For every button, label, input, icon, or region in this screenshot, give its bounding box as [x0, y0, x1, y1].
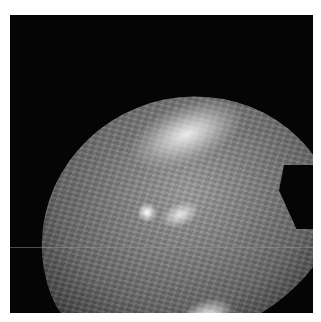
scan-line	[10, 247, 313, 248]
tissue-specimen	[10, 52, 313, 313]
image-frame	[10, 15, 313, 313]
